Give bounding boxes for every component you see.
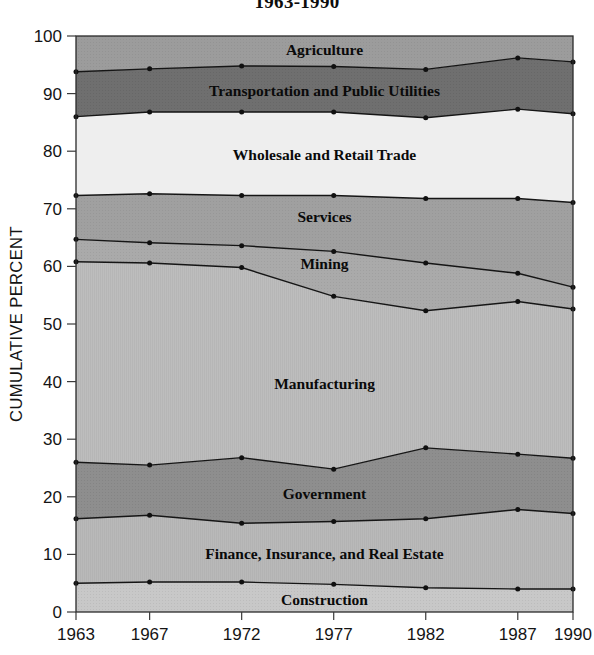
data-point-marker (147, 463, 152, 468)
data-point-marker (515, 271, 520, 276)
data-point-marker (147, 66, 152, 71)
band-label-government: Government (283, 485, 367, 502)
x-tick-label: 1963 (57, 625, 95, 644)
y-axis-title: CUMULATIVE PERCENT (7, 226, 25, 422)
data-point-marker (515, 452, 520, 457)
chart-canvas: 0102030405060708090100CUMULATIVE PERCENT… (0, 0, 594, 655)
chart-bands (76, 36, 573, 612)
data-point-marker (331, 519, 336, 524)
data-point-marker (147, 580, 152, 585)
data-point-marker (515, 55, 520, 60)
band-label-wholesale: Wholesale and Retail Trade (233, 146, 416, 163)
data-point-marker (331, 467, 336, 472)
y-tick-label: 20 (43, 488, 62, 507)
x-tick-label: 1977 (315, 625, 353, 644)
y-tick-label: 60 (43, 257, 62, 276)
y-tick-label: 70 (43, 200, 62, 219)
data-point-marker (147, 513, 152, 518)
data-point-marker (515, 507, 520, 512)
y-tick-label: 50 (43, 315, 62, 334)
data-point-marker (331, 64, 336, 69)
band-label-manufacturing: Manufacturing (274, 375, 375, 392)
data-point-marker (239, 521, 244, 526)
data-point-marker (239, 110, 244, 115)
y-tick-label: 100 (34, 27, 62, 46)
data-point-marker (331, 110, 336, 115)
data-point-marker (147, 240, 152, 245)
data-point-marker (423, 67, 428, 72)
data-point-marker (239, 580, 244, 585)
x-tick-label: 1967 (131, 625, 169, 644)
y-tick-label: 90 (43, 85, 62, 104)
data-point-marker (147, 110, 152, 115)
data-point-marker (423, 260, 428, 265)
data-point-marker (515, 196, 520, 201)
data-point-marker (239, 63, 244, 68)
data-point-marker (239, 193, 244, 198)
data-point-marker (331, 249, 336, 254)
y-tick-label: 40 (43, 373, 62, 392)
data-point-marker (331, 582, 336, 587)
data-point-marker (147, 260, 152, 265)
data-point-marker (239, 265, 244, 270)
y-tick-label: 80 (43, 142, 62, 161)
data-point-marker (515, 107, 520, 112)
x-tick-label: 1972 (223, 625, 261, 644)
data-point-marker (239, 243, 244, 248)
band-label-finance: Finance, Insurance, and Real Estate (205, 545, 444, 562)
band-label-services: Services (297, 208, 351, 225)
data-point-marker (331, 294, 336, 299)
x-tick-label: 1987 (499, 625, 537, 644)
data-point-marker (423, 308, 428, 313)
band-label-construction: Construction (281, 591, 368, 608)
data-point-marker (423, 196, 428, 201)
data-point-marker (515, 586, 520, 591)
y-tick-label: 10 (43, 545, 62, 564)
x-tick-label: 1990 (554, 625, 592, 644)
data-point-marker (331, 193, 336, 198)
data-point-marker (147, 191, 152, 196)
data-point-marker (423, 115, 428, 120)
band-label-mining: Mining (300, 255, 348, 272)
y-axis: 0102030405060708090100CUMULATIVE PERCENT (7, 27, 76, 622)
data-point-marker (423, 445, 428, 450)
stacked-area-chart: 1963-1990 0102030405060708090100CUMULATI… (0, 0, 594, 655)
data-point-marker (515, 299, 520, 304)
y-tick-label: 0 (53, 603, 62, 622)
x-tick-label: 1982 (407, 625, 445, 644)
data-point-marker (423, 516, 428, 521)
x-axis: 1963196719721977198219871990 (57, 612, 592, 644)
band-label-transportation: Transportation and Public Utilities (209, 82, 440, 99)
chart-title: 1963-1990 (0, 0, 594, 13)
data-point-marker (239, 455, 244, 460)
y-tick-label: 30 (43, 430, 62, 449)
band-label-agriculture: Agriculture (286, 41, 363, 58)
data-point-marker (423, 585, 428, 590)
